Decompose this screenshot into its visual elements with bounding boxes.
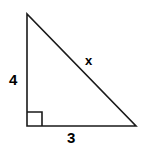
horizontal-leg-label: 3 <box>67 130 75 145</box>
triangle-drawing <box>0 0 146 150</box>
triangle-outline <box>27 14 136 126</box>
hypotenuse-label: x <box>85 54 92 67</box>
right-angle-marker-icon <box>27 112 42 126</box>
right-triangle-figure: 4 3 x <box>0 0 146 150</box>
vertical-leg-label: 4 <box>9 72 17 87</box>
